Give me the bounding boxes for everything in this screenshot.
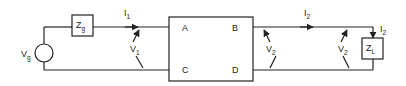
zl-label: ZL bbox=[366, 43, 376, 55]
i2-load-label: I2 bbox=[380, 24, 387, 36]
terminal-a: A bbox=[182, 23, 188, 33]
v1-label: V1 bbox=[130, 44, 140, 56]
v1-tail bbox=[136, 56, 143, 68]
v2-tail-2 bbox=[343, 56, 349, 68]
circuit-diagram: Vg Zg I1 V1 A B C D I2 V2 V2 I2 ZL bbox=[0, 0, 406, 86]
i2-label: I2 bbox=[304, 8, 311, 20]
v2-arrow-1 bbox=[264, 30, 270, 42]
terminal-b: B bbox=[232, 23, 238, 33]
i1-label: I1 bbox=[124, 8, 131, 20]
vg-label: Vg bbox=[21, 49, 31, 62]
v1-arrow bbox=[133, 30, 139, 42]
terminal-c: C bbox=[182, 65, 189, 75]
zg-label: Zg bbox=[76, 20, 86, 33]
v2-label-1: V2 bbox=[266, 44, 276, 56]
terminal-d: D bbox=[232, 65, 239, 75]
voltage-source bbox=[35, 27, 53, 70]
v2-label-2: V2 bbox=[338, 44, 348, 56]
v2-arrow-2 bbox=[341, 30, 347, 42]
v2-tail-1 bbox=[270, 56, 276, 68]
